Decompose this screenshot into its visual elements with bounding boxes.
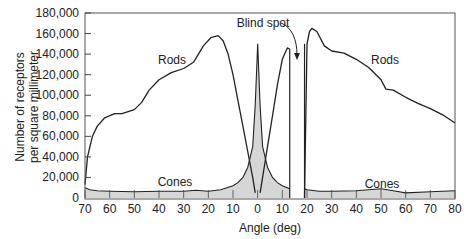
y-tick-label: 140,000 (36, 47, 80, 61)
y-tick-label: 80,000 (42, 109, 79, 123)
x-tick-label: 20 (202, 202, 216, 216)
x-tick-label: 70 (78, 202, 92, 216)
y-tick-label: 40,000 (42, 150, 79, 164)
y-axis: 020,00040,00060,00080,000100,000120,0001… (36, 6, 91, 205)
x-tick-label: 70 (424, 202, 438, 216)
x-axis: 7060504030201001020304050607080 (78, 202, 462, 216)
y-tick-label: 20,000 (42, 170, 79, 184)
y-tick-label: 100,000 (36, 88, 80, 102)
cones-right-label: Cones (365, 177, 400, 191)
y-tick-label: 60,000 (42, 129, 79, 143)
x-tick-label: 10 (226, 202, 240, 216)
x-tick-label: 10 (276, 202, 290, 216)
x-tick-label: 20 (300, 202, 314, 216)
x-tick-label: 30 (325, 202, 339, 216)
x-tick-label: 50 (374, 202, 388, 216)
y-axis-title-line1: Number of receptors (13, 52, 27, 161)
rods-right-label: Rods (371, 53, 399, 67)
x-tick-label: 50 (128, 202, 142, 216)
arrowhead-icon (294, 53, 300, 60)
x-tick-label: 80 (448, 202, 462, 216)
rods-left-label: Rods (158, 53, 186, 67)
y-axis-title-line2: per square millimeter (27, 51, 41, 163)
cones-left-label: Cones (158, 175, 193, 189)
cones-shaded-area (85, 44, 455, 198)
x-tick-label: 40 (152, 202, 166, 216)
x-tick-label: 60 (103, 202, 117, 216)
x-tick-label: 60 (399, 202, 413, 216)
y-tick-label: 120,000 (36, 68, 80, 82)
y-tick-label: 180,000 (36, 6, 80, 20)
x-tick-label: 40 (350, 202, 364, 216)
y-tick-label: 160,000 (36, 27, 80, 41)
x-tick-label: 0 (254, 202, 261, 216)
receptor-density-chart: 020,00040,00060,00080,000100,000120,0001… (0, 0, 472, 239)
x-axis-title: Angle (deg) (239, 221, 301, 235)
x-tick-label: 30 (177, 202, 191, 216)
